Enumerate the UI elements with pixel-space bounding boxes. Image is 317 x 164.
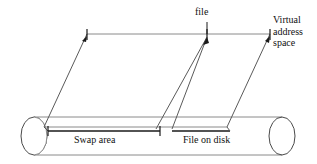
vas-label-line-3: space <box>273 37 295 48</box>
virtual-address-space-parallelogram <box>44 34 270 127</box>
swap-area-label: Swap area <box>74 134 115 145</box>
file-mapping-arrows <box>156 22 209 129</box>
cylinder-right-cap <box>269 117 295 155</box>
vas-label-line-1: Virtual <box>273 14 301 25</box>
file-label: file <box>195 6 208 17</box>
swap-area-mapping <box>44 29 160 136</box>
file-mapping-line-left <box>156 37 207 129</box>
file-on-disk-label: File on disk <box>183 134 230 145</box>
cylinder-left-cap-inner-arc <box>34 117 47 155</box>
swap-area-arrowhead <box>82 36 87 42</box>
vas-label-line-2: address <box>273 26 303 37</box>
file-mapping-line-right <box>172 37 207 129</box>
vas-arrowhead <box>265 36 270 43</box>
file-on-disk-mapping <box>172 127 230 131</box>
virtual-address-space-label: Virtual address space <box>273 14 317 49</box>
vas-left-edge <box>44 34 87 127</box>
diagram-canvas <box>0 0 317 164</box>
vas-right-edge <box>227 34 270 127</box>
disk-cylinder <box>21 117 295 155</box>
virtual-memory-file-mapping-diagram: file Virtual address space Swap area Fil… <box>0 0 317 164</box>
